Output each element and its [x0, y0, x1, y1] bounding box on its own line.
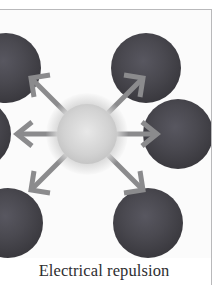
figure-root: Electrical repulsion: [0, 0, 223, 285]
central-particle: [46, 93, 128, 175]
illustration-stage: [0, 10, 211, 258]
figure-caption: Electrical repulsion: [0, 260, 208, 281]
illustration-panel: [0, 9, 212, 258]
particle-top-right: [111, 33, 181, 103]
particle-bottom-right: [113, 188, 183, 258]
panel-right-rule: [211, 258, 212, 285]
central-particle-core: [57, 104, 117, 164]
electrical-repulsion-illustration: [0, 10, 211, 258]
